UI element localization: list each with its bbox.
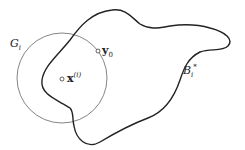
point-y0 xyxy=(96,49,100,53)
label-y0: y0 xyxy=(102,45,113,59)
label-g-i: Gi xyxy=(10,38,21,52)
label-x-i: x(i) xyxy=(67,72,81,84)
label-b-i-star: Bi* xyxy=(183,64,197,79)
point-x-i xyxy=(60,77,64,81)
diagram-canvas xyxy=(0,0,245,150)
